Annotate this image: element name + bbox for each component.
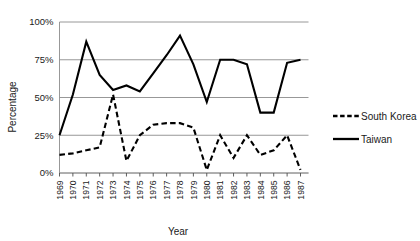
x-tick-label-1983: 1983 [242,180,252,199]
legend-label-south-korea: South Korea [361,111,417,122]
y-axis-tick-labels: 0%25%50%75%100% [29,16,54,178]
x-tick-label-1981: 1981 [215,180,225,199]
legend-label-taiwan: Taiwan [361,134,392,145]
x-axis-tick-marks [60,173,301,177]
y-axis-title: Percentage [7,81,18,133]
line-chart: 0%25%50%75%100% 196919701971197219731974… [0,0,420,241]
x-tick-label-1982: 1982 [229,180,239,199]
x-tick-label-1972: 1972 [95,180,105,199]
y-tick-label-100: 100% [29,16,54,27]
x-tick-label-1977: 1977 [162,180,172,199]
x-tick-label-1969: 1969 [55,180,65,199]
y-tick-label-25: 25% [34,130,54,141]
chart-container: 0%25%50%75%100% 196919701971197219731974… [0,0,420,241]
x-tick-label-1984: 1984 [256,180,266,199]
y-tick-label-75: 75% [34,54,54,65]
x-tick-label-1970: 1970 [68,180,78,199]
series-line-taiwan [60,36,301,136]
chart-legend: South KoreaTaiwan [333,111,417,145]
x-tick-label-1979: 1979 [189,180,199,199]
x-axis-tick-labels: 1969197019711972197319741975197619771978… [55,180,306,199]
series-line-south-korea [60,94,301,169]
x-tick-label-1986: 1986 [282,180,292,199]
x-tick-label-1971: 1971 [81,180,91,199]
x-tick-label-1987: 1987 [296,180,306,199]
y-tick-label-0: 0% [40,167,54,178]
data-series-group [60,36,301,170]
x-tick-label-1985: 1985 [269,180,279,199]
y-tick-label-50: 50% [34,92,54,103]
x-tick-label-1980: 1980 [202,180,212,199]
x-tick-label-1978: 1978 [175,180,185,199]
x-tick-label-1976: 1976 [148,180,158,199]
x-tick-label-1973: 1973 [108,180,118,199]
x-axis-title: Year [168,226,189,237]
x-tick-label-1974: 1974 [122,180,132,199]
x-tick-label-1975: 1975 [135,180,145,199]
